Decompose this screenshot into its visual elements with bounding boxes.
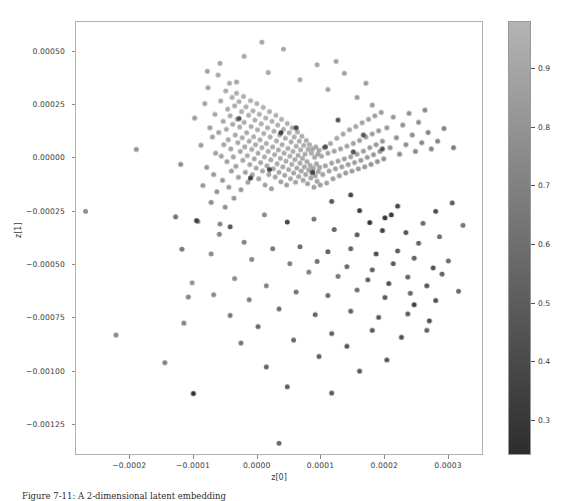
colorbar-tick-label: 0.6 bbox=[538, 239, 550, 248]
scatter-points-layer bbox=[76, 22, 482, 454]
colorbar-tick-label: 0.8 bbox=[538, 122, 550, 131]
colorbar-tick-label: 0.7 bbox=[538, 181, 550, 190]
x-axis-label: z[0] bbox=[271, 473, 287, 482]
y-tick-mark bbox=[72, 424, 76, 425]
x-tick-label: −0.0001 bbox=[176, 461, 210, 470]
y-tick-label: −0.00125 bbox=[0, 420, 65, 429]
y-tick-mark bbox=[72, 264, 76, 265]
colorbar-gradient bbox=[508, 21, 531, 455]
y-tick-label: 0.00050 bbox=[0, 46, 65, 55]
x-tick-label: 0.0002 bbox=[370, 461, 397, 470]
y-tick-mark bbox=[72, 51, 76, 52]
y-tick-label: −0.00100 bbox=[0, 366, 65, 375]
y-tick-label: −0.00025 bbox=[0, 206, 65, 215]
colorbar-tick-mark bbox=[531, 185, 535, 186]
y-tick-label: −0.00075 bbox=[0, 313, 65, 322]
x-tick-mark bbox=[257, 455, 258, 459]
x-tick-label: 0.0003 bbox=[434, 461, 461, 470]
colorbar-tick-mark bbox=[531, 127, 535, 128]
y-tick-label: −0.00050 bbox=[0, 260, 65, 269]
y-tick-mark bbox=[72, 371, 76, 372]
colorbar-tick-mark bbox=[531, 68, 535, 69]
colorbar-tick-label: 0.3 bbox=[538, 415, 550, 424]
x-tick-mark bbox=[193, 455, 194, 459]
colorbar-tick-mark bbox=[531, 420, 535, 421]
x-tick-mark bbox=[384, 455, 385, 459]
x-tick-mark bbox=[129, 455, 130, 459]
x-tick-mark bbox=[320, 455, 321, 459]
figure-container: 0.000500.000250.00000−0.00025−0.00050−0.… bbox=[0, 0, 567, 501]
y-tick-label: 0.00025 bbox=[0, 100, 65, 109]
figure-caption: Figure 7-11: A 2-dimensional latent embe… bbox=[22, 491, 226, 501]
colorbar-tick-label: 0.9 bbox=[538, 63, 550, 72]
y-tick-mark bbox=[72, 104, 76, 105]
y-tick-mark bbox=[72, 211, 76, 212]
y-tick-mark bbox=[72, 317, 76, 318]
scatter-plot-axes bbox=[75, 21, 483, 455]
y-tick-mark bbox=[72, 157, 76, 158]
colorbar bbox=[508, 21, 531, 455]
y-tick-label: 0.00000 bbox=[0, 153, 65, 162]
colorbar-tick-label: 0.5 bbox=[538, 298, 550, 307]
colorbar-tick-label: 0.4 bbox=[538, 357, 550, 366]
x-tick-label: 0.0000 bbox=[243, 461, 270, 470]
y-axis-label: z[1] bbox=[14, 222, 23, 238]
colorbar-tick-mark bbox=[531, 303, 535, 304]
x-tick-mark bbox=[448, 455, 449, 459]
colorbar-tick-mark bbox=[531, 244, 535, 245]
x-tick-label: −0.0002 bbox=[112, 461, 146, 470]
colorbar-tick-mark bbox=[531, 361, 535, 362]
x-tick-label: 0.0001 bbox=[307, 461, 334, 470]
